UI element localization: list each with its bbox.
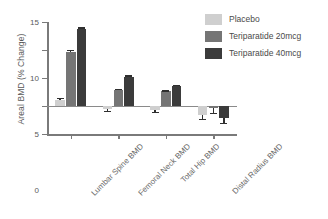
x-tick bbox=[213, 134, 214, 139]
bar-rect bbox=[172, 86, 182, 106]
y-tick: 5 bbox=[42, 78, 47, 79]
y-tick-label: 0 bbox=[35, 186, 39, 195]
legend-label: Placebo bbox=[229, 14, 260, 24]
y-tick: 10 bbox=[42, 50, 47, 51]
bar-rect bbox=[114, 90, 124, 106]
bar-chart: Areal BMD (% Change) -5051015 Lumbar Spi… bbox=[0, 0, 328, 219]
error-bar-cap bbox=[162, 90, 169, 91]
y-tick-label: 15 bbox=[30, 18, 39, 27]
bar-rect bbox=[161, 91, 171, 106]
y-tick: 0 bbox=[42, 106, 47, 107]
legend-swatch bbox=[205, 31, 222, 42]
bar bbox=[219, 106, 229, 118]
error-bar-cap bbox=[78, 27, 85, 28]
x-category-label: Distal Radius BMD bbox=[231, 142, 285, 196]
error-bar-cap bbox=[57, 98, 64, 99]
x-tick bbox=[166, 134, 167, 139]
bar-rect bbox=[77, 29, 87, 106]
bar bbox=[172, 86, 182, 106]
legend-item[interactable]: Teriparatide 40mcg bbox=[205, 46, 301, 60]
bar-rect bbox=[198, 106, 208, 115]
bar bbox=[198, 106, 208, 115]
bar bbox=[124, 77, 134, 106]
y-axis-title: Areal BMD (% Change) bbox=[16, 14, 26, 144]
x-tick bbox=[118, 134, 119, 139]
bar-rect bbox=[219, 106, 229, 118]
error-bar-cap bbox=[220, 123, 227, 124]
x-category-label: Femoral Neck BMD bbox=[137, 142, 193, 198]
bar-rect bbox=[55, 100, 65, 106]
bar-rect bbox=[66, 52, 76, 106]
bar bbox=[55, 100, 65, 106]
error-bar-cap bbox=[115, 89, 122, 90]
legend-item[interactable]: Teriparatide 20mcg bbox=[205, 29, 301, 43]
error-bar-cap bbox=[67, 50, 74, 51]
y-tick-label: 5 bbox=[35, 130, 39, 139]
error-bar-cap bbox=[210, 113, 217, 114]
x-axis-line bbox=[47, 134, 237, 136]
legend-swatch bbox=[205, 14, 222, 25]
bar bbox=[77, 29, 87, 106]
legend: PlaceboTeriparatide 20mcgTeriparatide 40… bbox=[205, 12, 301, 63]
legend-swatch bbox=[205, 48, 222, 59]
y-tick: 15 bbox=[42, 22, 47, 23]
bar bbox=[161, 91, 171, 106]
legend-label: Teriparatide 40mcg bbox=[229, 48, 301, 58]
error-bar-cap bbox=[199, 119, 206, 120]
legend-item[interactable]: Placebo bbox=[205, 12, 301, 26]
y-tick-label: 10 bbox=[30, 74, 39, 83]
error-bar-cap bbox=[173, 85, 180, 86]
bar bbox=[66, 52, 76, 106]
legend-label: Teriparatide 20mcg bbox=[229, 31, 301, 41]
x-tick bbox=[71, 134, 72, 139]
bar-rect bbox=[124, 77, 134, 106]
y-axis-line bbox=[47, 22, 49, 134]
error-bar-cap bbox=[125, 75, 132, 76]
bar bbox=[114, 90, 124, 106]
error-bar-cap bbox=[152, 112, 159, 113]
y-tick: -5 bbox=[42, 134, 47, 135]
error-bar-cap bbox=[104, 111, 111, 112]
